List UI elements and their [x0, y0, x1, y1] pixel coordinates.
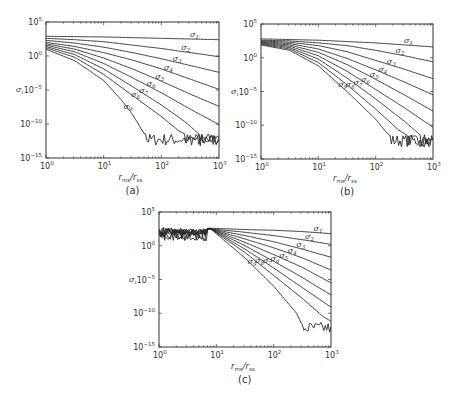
x-tick-label: 103: [427, 161, 441, 172]
series-line-3: [261, 41, 433, 79]
y-tick-label: 10−5: [24, 84, 43, 95]
y-tick-label: 10−10: [133, 307, 155, 318]
y-tick-label: 10−10: [20, 118, 42, 129]
x-tick-label: 100: [153, 349, 167, 360]
x-tick-label: 102: [370, 161, 384, 172]
panel-a: 10010110210310510010−510−1010−15σirms/rs…: [16, 16, 227, 196]
figure: 10010110210310510010−510−1010−15σirms/rs…: [0, 0, 450, 399]
series-label-3: σ3: [173, 54, 182, 64]
series-line-5: [261, 42, 433, 111]
x-tick-label: 102: [268, 349, 282, 360]
x-axis-label: rms/rss: [231, 361, 255, 372]
y-axis-label: σi: [231, 87, 238, 97]
series-label-3: σ3: [387, 57, 396, 67]
series-label-1: σ1: [314, 224, 323, 234]
y-tick-label: 100: [243, 52, 257, 63]
series-label-9: σ9: [124, 102, 133, 112]
series-label-2: σ2: [395, 46, 404, 56]
series-label-4: σ4: [378, 65, 387, 75]
y-tick-label: 105: [28, 16, 42, 27]
y-axis-label: σi: [16, 85, 23, 95]
series-label-4: σ4: [164, 63, 173, 73]
x-tick-label: 101: [312, 161, 326, 172]
y-tick-label: 10−10: [235, 119, 257, 130]
panel-b: 10010110210310510010−510−1010−15σirms/rs…: [231, 18, 441, 197]
x-tick-label: 102: [155, 160, 169, 171]
y-tick-label: 105: [141, 206, 155, 217]
panel-caption: (a): [126, 185, 140, 196]
series-label-2: σ2: [305, 232, 314, 242]
panel-caption: (c): [238, 374, 251, 385]
series-label-1: σ1: [190, 30, 199, 40]
series-line-8: [261, 44, 433, 147]
y-tick-label: 100: [141, 240, 155, 251]
panel-c: 10010110210310510010−510−1010−15σirms/rs…: [129, 206, 339, 385]
y-tick-label: 10−5: [239, 86, 258, 97]
y-axis-label: σi: [129, 275, 136, 285]
series-label-5: σ5: [155, 72, 164, 82]
x-tick-label: 103: [325, 349, 339, 360]
x-tick-label: 103: [213, 160, 227, 171]
x-axis-label: rms/rss: [333, 173, 357, 184]
x-tick-label: 101: [98, 160, 112, 171]
series-line-6: [46, 45, 219, 125]
series-label-3: σ3: [296, 240, 305, 250]
series-line-7: [261, 44, 433, 146]
x-tick-label: 100: [255, 161, 269, 172]
panel-caption: (b): [340, 186, 354, 197]
x-tick-label: 101: [210, 349, 224, 360]
y-tick-label: 105: [243, 18, 257, 29]
series-label-1: σ1: [404, 36, 413, 46]
y-tick-label: 100: [28, 50, 42, 61]
x-tick-label: 100: [40, 160, 54, 171]
y-tick-label: 10−5: [137, 274, 156, 285]
series-line-9: [261, 45, 433, 147]
series-label-2: σ2: [181, 43, 190, 53]
x-axis-label: rms/rss: [119, 172, 143, 183]
